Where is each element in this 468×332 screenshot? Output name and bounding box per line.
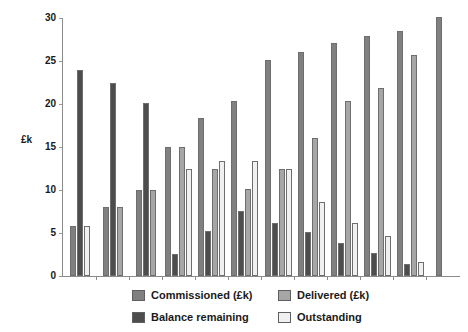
- y-axis-tick-label: 30: [30, 13, 56, 23]
- x-axis-group-tick: [162, 276, 163, 280]
- bar: [404, 264, 410, 276]
- bar: [103, 207, 109, 276]
- bar: [179, 147, 185, 276]
- bar: [198, 118, 204, 276]
- y-axis-tick-label: 5: [30, 228, 56, 238]
- bar: [150, 190, 156, 276]
- bar: [411, 55, 417, 276]
- legend-item[interactable]: Commissioned (£k): [132, 290, 252, 301]
- legend-swatch: [278, 312, 291, 323]
- x-axis-group-tick: [393, 276, 394, 280]
- legend-item[interactable]: Balance remaining: [132, 312, 249, 323]
- bar-group: [295, 18, 328, 276]
- bar: [305, 232, 311, 276]
- bar: [385, 236, 391, 276]
- y-axis-tick-label: 15: [30, 142, 56, 152]
- bar: [117, 207, 123, 276]
- bar: [378, 88, 384, 276]
- x-axis-group-tick: [294, 276, 295, 280]
- bar-group: [129, 18, 162, 276]
- bar: [331, 43, 337, 276]
- bar: [279, 169, 285, 276]
- bar: [397, 31, 403, 276]
- bar: [231, 101, 237, 276]
- bar-group: [361, 18, 394, 276]
- bar: [319, 202, 325, 276]
- bar-group: [262, 18, 295, 276]
- bar: [272, 223, 278, 276]
- bar-group: [394, 18, 427, 276]
- legend-label: Commissioned (£k): [151, 290, 252, 301]
- bar: [212, 169, 218, 276]
- bar: [70, 226, 76, 276]
- legend-swatch: [132, 290, 145, 301]
- x-axis-group-tick: [228, 276, 229, 280]
- y-axis-tick-label: 0: [30, 271, 56, 281]
- bar: [165, 147, 171, 276]
- bar: [338, 243, 344, 276]
- bar: [238, 211, 244, 276]
- bar: [136, 190, 142, 276]
- bar-group: [328, 18, 361, 276]
- legend-swatch: [132, 312, 145, 323]
- bar: [186, 169, 192, 276]
- bar: [245, 189, 251, 276]
- bar-group: [195, 18, 228, 276]
- x-axis-group-tick: [327, 276, 328, 280]
- bar-series-container: [63, 18, 460, 276]
- bar-chart: £k 051015202530 Commissioned (£k)Balance…: [0, 0, 468, 332]
- x-axis-group-tick: [360, 276, 361, 280]
- bar: [205, 231, 211, 276]
- y-axis-title: £k: [8, 134, 32, 145]
- bar: [286, 169, 292, 276]
- bar: [172, 254, 178, 276]
- x-axis-group-tick: [96, 276, 97, 280]
- bar-group: [162, 18, 195, 276]
- bar-group: [427, 18, 460, 276]
- y-axis-tick-label: 20: [30, 99, 56, 109]
- x-axis-group-tick: [261, 276, 262, 280]
- bar: [312, 138, 318, 276]
- legend-swatch: [278, 290, 291, 301]
- bar: [298, 52, 304, 276]
- legend-item[interactable]: Outstanding: [278, 312, 362, 323]
- bar-group: [228, 18, 261, 276]
- bar: [371, 253, 377, 276]
- bar: [364, 36, 370, 276]
- bar: [143, 103, 149, 276]
- legend-label: Balance remaining: [151, 312, 249, 323]
- bar: [84, 226, 90, 276]
- bar: [77, 70, 83, 276]
- bar: [265, 60, 271, 276]
- bar: [345, 101, 351, 276]
- bar-group: [96, 18, 129, 276]
- bar: [418, 262, 424, 276]
- legend-item[interactable]: Delivered (£k): [278, 290, 369, 301]
- bar: [110, 83, 116, 277]
- x-axis-group-tick: [129, 276, 130, 280]
- chart-legend: Commissioned (£k)Balance remainingDelive…: [132, 288, 402, 332]
- y-axis-tick-label: 25: [30, 56, 56, 66]
- x-axis-group-tick: [195, 276, 196, 280]
- bar: [352, 223, 358, 276]
- legend-label: Delivered (£k): [297, 290, 369, 301]
- y-axis-tick-label: 10: [30, 185, 56, 195]
- x-axis-group-tick: [426, 276, 427, 280]
- bar-group: [63, 18, 96, 276]
- bar: [252, 161, 258, 276]
- legend-label: Outstanding: [297, 312, 362, 323]
- plot-area: £k 051015202530: [0, 0, 468, 288]
- bar: [436, 17, 442, 276]
- bar: [219, 161, 225, 276]
